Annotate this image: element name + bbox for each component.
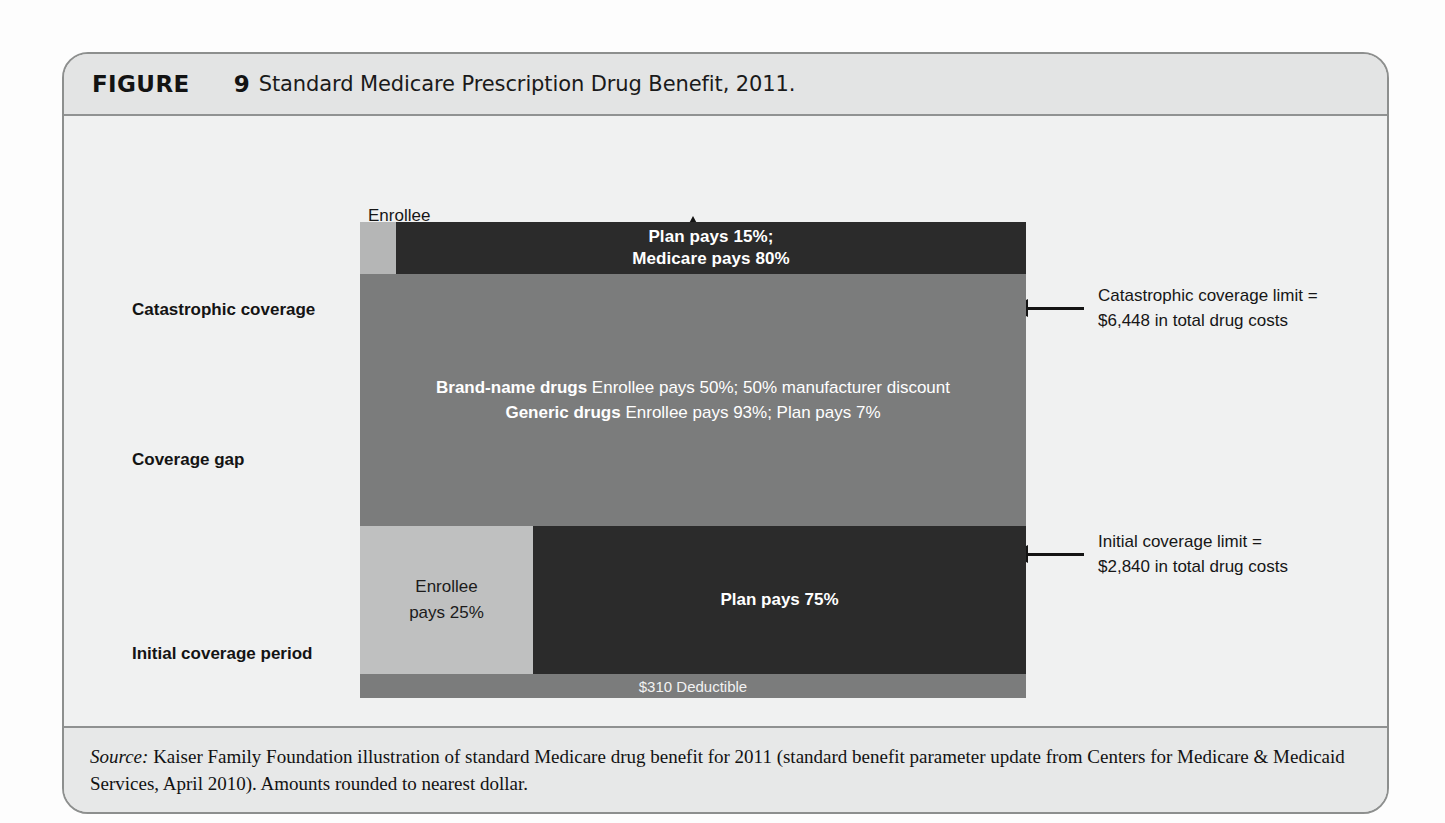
band-deductible: $310 Deductible: [360, 674, 1026, 698]
arrow-left-icon: [1026, 553, 1084, 556]
segment-catastrophic-plan-medicare: Plan pays 15%; Medicare pays 80%: [396, 222, 1026, 274]
band-initial-coverage-period: Enrollee pays 25% Plan pays 75%: [360, 526, 1026, 674]
source-label: Source:: [90, 746, 148, 767]
callout-initial-limit-line2: $2,840 in total drug costs: [1098, 555, 1288, 580]
coverage-gap-generic-text: Enrollee pays 93%; Plan pays 7%: [625, 403, 880, 422]
coverage-gap-brand-label: Brand-name drugs: [436, 378, 587, 397]
figure-source-footer: Source: Kaiser Family Foundation illustr…: [64, 726, 1387, 812]
callout-catastrophic-limit-line1: Catastrophic coverage limit =: [1098, 284, 1318, 309]
coverage-gap-brand-text: Enrollee pays 50%; 50% manufacturer disc…: [592, 378, 950, 397]
coverage-gap-generic-label: Generic drugs: [505, 403, 620, 422]
figure-frame: FIGURE 9 Standard Medicare Prescription …: [62, 52, 1389, 814]
row-label-initial-coverage-period: Initial coverage period: [132, 644, 312, 664]
segment-initial-enrollee-line1: Enrollee: [415, 574, 477, 600]
source-caption: Source: Kaiser Family Foundation illustr…: [90, 744, 1361, 798]
arrow-left-icon: [1026, 307, 1084, 310]
band-coverage-gap: Brand-name drugs Enrollee pays 50%; 50% …: [360, 274, 1026, 526]
figure-body: Catastrophic coverage Coverage gap Initi…: [64, 116, 1387, 726]
page-title: Standard Medicare Prescription Drug Bene…: [259, 72, 796, 96]
segment-initial-plan-75: Plan pays 75%: [533, 526, 1026, 674]
band-catastrophic-coverage: Plan pays 15%; Medicare pays 80%: [360, 222, 1026, 274]
callout-catastrophic-coverage-limit: Catastrophic coverage limit = $6,448 in …: [1026, 284, 1318, 333]
segment-catastrophic-enrollee-5: [360, 222, 396, 274]
callout-catastrophic-coverage-limit-text: Catastrophic coverage limit = $6,448 in …: [1098, 284, 1318, 333]
coverage-gap-brand-line: Brand-name drugs Enrollee pays 50%; 50% …: [436, 375, 950, 401]
coverage-gap-generic-line: Generic drugs Enrollee pays 93%; Plan pa…: [505, 400, 880, 426]
figure-header: FIGURE 9 Standard Medicare Prescription …: [64, 54, 1387, 116]
segment-initial-enrollee-line2: pays 25%: [409, 600, 484, 626]
segment-catastrophic-line1: Plan pays 15%;: [648, 226, 773, 248]
page-background: FIGURE 9 Standard Medicare Prescription …: [0, 0, 1445, 823]
benefit-phase-chart: Plan pays 15%; Medicare pays 80% Brand-n…: [360, 222, 1026, 698]
row-label-coverage-gap: Coverage gap: [132, 450, 244, 470]
figure-label: FIGURE: [92, 71, 190, 97]
callout-initial-coverage-limit-text: Initial coverage limit = $2,840 in total…: [1098, 530, 1288, 579]
row-label-catastrophic-coverage: Catastrophic coverage: [132, 300, 315, 320]
segment-initial-enrollee-25: Enrollee pays 25%: [360, 526, 533, 674]
source-body: Kaiser Family Foundation illustration of…: [90, 746, 1345, 794]
segment-catastrophic-line2: Medicare pays 80%: [632, 248, 790, 270]
callout-catastrophic-limit-line2: $6,448 in total drug costs: [1098, 309, 1318, 334]
figure-number: 9: [234, 71, 250, 97]
callout-initial-coverage-limit: Initial coverage limit = $2,840 in total…: [1026, 530, 1288, 579]
callout-initial-limit-line1: Initial coverage limit =: [1098, 530, 1288, 555]
